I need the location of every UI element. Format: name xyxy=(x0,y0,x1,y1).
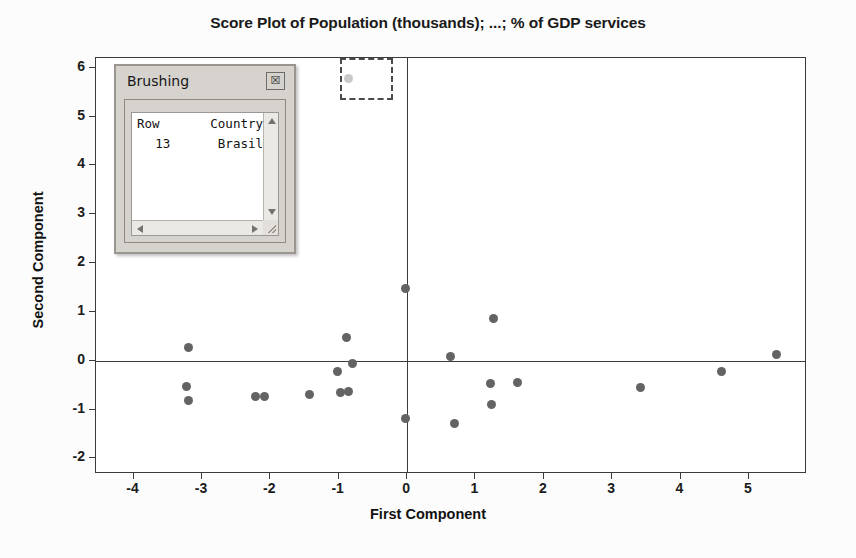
data-point[interactable] xyxy=(717,367,726,376)
reference-line-horizontal xyxy=(96,361,805,362)
horizontal-scrollbar[interactable] xyxy=(132,220,263,235)
data-point[interactable] xyxy=(333,367,342,376)
brushing-table-wrapper: RowCountry13Brasil xyxy=(131,112,279,236)
reference-line-vertical xyxy=(407,58,408,472)
y-axis-tick-label: 0 xyxy=(55,351,85,367)
y-axis-tick xyxy=(89,360,95,361)
y-axis-tick xyxy=(89,213,95,214)
chevron-up-icon[interactable] xyxy=(268,118,276,124)
x-axis-tick-label: 1 xyxy=(454,480,494,496)
data-point[interactable] xyxy=(489,314,498,323)
data-point[interactable] xyxy=(401,414,410,423)
table-row[interactable]: 13Brasil xyxy=(132,133,263,153)
x-axis-tick-label: -3 xyxy=(181,480,221,496)
y-axis-tick xyxy=(89,262,95,263)
y-axis-tick xyxy=(89,457,95,458)
x-axis-tick-label: 5 xyxy=(728,480,768,496)
data-point[interactable] xyxy=(513,378,522,387)
vertical-scrollbar[interactable] xyxy=(263,113,278,220)
x-axis-tick-label: -4 xyxy=(113,480,153,496)
x-axis-tick xyxy=(338,473,339,479)
x-axis-tick xyxy=(543,473,544,479)
y-axis-tick-label: 5 xyxy=(55,107,85,123)
x-axis-tick xyxy=(269,473,270,479)
data-point[interactable] xyxy=(636,383,645,392)
brushing-body: RowCountry13Brasil xyxy=(124,99,286,243)
brushing-table[interactable]: RowCountry13Brasil xyxy=(132,113,263,220)
data-point[interactable] xyxy=(446,352,455,361)
brushing-dialog[interactable]: Brushing ☒ RowCountry13Brasil xyxy=(114,64,296,254)
table-header-row: RowCountry xyxy=(132,113,263,133)
data-point[interactable] xyxy=(251,392,260,401)
data-point[interactable] xyxy=(487,400,496,409)
chevron-right-icon[interactable] xyxy=(252,225,258,233)
x-axis-tick xyxy=(611,473,612,479)
resize-grip-icon[interactable] xyxy=(263,220,278,235)
y-axis-tick xyxy=(89,311,95,312)
y-axis-tick-label: 4 xyxy=(55,155,85,171)
y-axis-tick-label: 1 xyxy=(55,302,85,318)
y-axis-tick xyxy=(89,164,95,165)
data-point[interactable] xyxy=(342,333,351,342)
x-axis-tick xyxy=(680,473,681,479)
data-point[interactable] xyxy=(486,379,495,388)
y-axis-tick-label: 6 xyxy=(55,58,85,74)
close-icon[interactable]: ☒ xyxy=(266,72,285,90)
column-header-row: Row xyxy=(132,114,182,133)
y-axis-label: Second Component xyxy=(30,160,46,360)
data-point[interactable] xyxy=(450,419,459,428)
x-axis-tick xyxy=(748,473,749,479)
y-axis-tick-label: -1 xyxy=(55,400,85,416)
data-point[interactable] xyxy=(348,359,357,368)
y-axis-tick-label: -2 xyxy=(55,448,85,464)
x-axis-tick-label: -1 xyxy=(318,480,358,496)
data-point[interactable] xyxy=(182,382,191,391)
data-point[interactable] xyxy=(184,396,193,405)
column-header-country: Country xyxy=(182,114,263,133)
x-axis-tick xyxy=(133,473,134,479)
y-axis-tick xyxy=(89,409,95,410)
chevron-left-icon[interactable] xyxy=(137,225,143,233)
brushing-title: Brushing xyxy=(127,73,189,89)
cell-country-name: Brasil xyxy=(182,134,263,153)
x-axis-tick-label: 4 xyxy=(660,480,700,496)
x-axis-tick-label: 0 xyxy=(386,480,426,496)
x-axis-tick-label: 2 xyxy=(523,480,563,496)
x-axis-label: First Component xyxy=(0,506,856,522)
chevron-down-icon[interactable] xyxy=(268,209,276,215)
x-axis-tick xyxy=(474,473,475,479)
y-axis-tick-label: 3 xyxy=(55,204,85,220)
x-axis-tick-label: 3 xyxy=(591,480,631,496)
x-axis-tick xyxy=(406,473,407,479)
data-point[interactable] xyxy=(344,387,353,396)
page-title: Score Plot of Population (thousands); ..… xyxy=(0,14,856,32)
y-axis-tick xyxy=(89,116,95,117)
x-axis-tick xyxy=(201,473,202,479)
cell-row-number: 13 xyxy=(132,134,182,153)
data-point[interactable] xyxy=(305,390,314,399)
data-point[interactable] xyxy=(184,343,193,352)
brushing-titlebar[interactable]: Brushing ☒ xyxy=(116,66,294,98)
score-plot-page: Score Plot of Population (thousands); ..… xyxy=(0,0,856,558)
selection-marquee[interactable] xyxy=(340,58,393,100)
x-axis-tick-label: -2 xyxy=(249,480,289,496)
data-point[interactable] xyxy=(772,350,781,359)
y-axis-tick xyxy=(89,67,95,68)
data-point[interactable] xyxy=(260,392,269,401)
y-axis-tick-label: 2 xyxy=(55,253,85,269)
data-point[interactable] xyxy=(401,284,410,293)
